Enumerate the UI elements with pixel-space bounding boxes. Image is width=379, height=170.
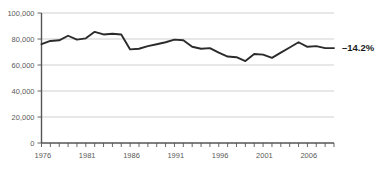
- x-tick-label-4: 1996: [212, 151, 229, 160]
- x-tick-label-2: 1986: [123, 151, 140, 160]
- x-tick-label-0: 1976: [35, 151, 52, 160]
- end-value-change: –14.2%: [342, 42, 375, 53]
- y-tick-label-2: 60,000: [12, 61, 35, 70]
- data-line-series-1: [42, 32, 335, 61]
- x-axis-labels: 1976198119861991199620012006: [35, 151, 318, 160]
- x-tick-label-6: 2006: [300, 151, 317, 160]
- x-tick-label-5: 2001: [256, 151, 273, 160]
- y-tick-label-4: 20,000: [12, 113, 35, 122]
- gridlines-group: [42, 13, 335, 117]
- x-tick-label-1: 1981: [79, 151, 96, 160]
- chart-canvas: 100,00080,00060,00040,00020,000019761981…: [0, 0, 379, 170]
- y-tick-label-1: 80,000: [12, 35, 35, 44]
- y-tick-label-0: 100,000: [7, 9, 34, 18]
- x-tick-label-3: 1991: [167, 151, 184, 160]
- y-tick-label-3: 40,000: [12, 87, 35, 96]
- y-tick-label-5: 0: [30, 139, 34, 148]
- y-axis-labels: 100,00080,00060,00040,00020,0000: [7, 9, 41, 148]
- line-chart: 100,00080,00060,00040,00020,000019761981…: [0, 0, 379, 170]
